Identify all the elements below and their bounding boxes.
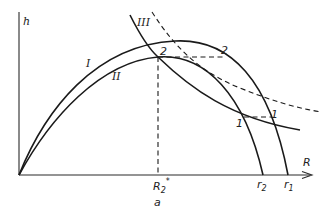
tick-r2: r2 [257, 178, 267, 193]
curve-I-label: I [85, 57, 91, 70]
x-axis-label: R [303, 156, 311, 169]
tick-R2star: R2* [153, 177, 170, 195]
diagram: h R I II III 2 2 1 1 R2* r2 r1 a [0, 0, 328, 216]
point-2-right-label: 2 [221, 44, 228, 57]
point-1-right-label: 1 [271, 108, 278, 121]
curve-II-label: II [111, 70, 121, 83]
point-1-left-label: 1 [236, 117, 243, 130]
curve-III-label: III [136, 16, 151, 29]
curve-II [19, 57, 263, 175]
y-axis-label: h [23, 15, 30, 28]
tick-r1: r1 [284, 178, 294, 193]
panel-label: a [154, 196, 161, 209]
curve-I [19, 41, 288, 175]
point-2-left-label: 2 [160, 45, 167, 58]
